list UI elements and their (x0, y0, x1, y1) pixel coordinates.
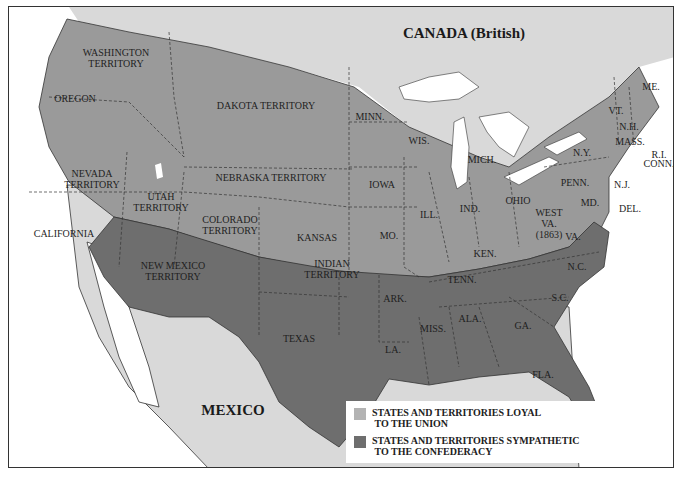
label-md: MD. (581, 197, 600, 208)
label-nebraska: NEBRASKA TERRITORY (215, 172, 326, 183)
label-west-va: WESTVA.(1863) (535, 207, 562, 240)
label-la: LA. (385, 344, 401, 355)
label-va: VA. (565, 231, 581, 242)
label-mass: MASS. (615, 136, 645, 147)
map-legend: STATES AND TERRITORIES LOYAL TO THE UNIO… (346, 401, 662, 463)
union-swatch (354, 408, 366, 420)
label-california: CALIFORNIA (34, 228, 95, 239)
civil-war-map: CANADA (British) MEXICO WASHINGTONTERRIT… (8, 6, 674, 468)
legend-item-confederacy: STATES AND TERRITORIES SYMPATHETIC TO TH… (354, 435, 580, 457)
label-kansas: KANSAS (297, 232, 337, 243)
label-penn: PENN. (561, 177, 590, 188)
label-oregon: OREGON (54, 93, 96, 104)
label-colorado: COLORADOTERRITORY (202, 214, 258, 236)
legend-item-union: STATES AND TERRITORIES LOYAL TO THE UNIO… (354, 407, 541, 429)
label-mich: MICH. (468, 154, 497, 165)
label-ga: GA. (515, 320, 532, 331)
label-minn: MINN. (355, 111, 384, 122)
label-wis: WIS. (409, 135, 430, 146)
label-ny: N.Y. (573, 147, 591, 158)
label-iowa: IOWA (369, 179, 395, 190)
label-ill: ILL. (420, 209, 438, 220)
legend-confederacy-line1: STATES AND TERRITORIES SYMPATHETIC (372, 435, 580, 446)
label-indian-territory: INDIANTERRITORY (304, 258, 359, 280)
label-sc: S.C. (551, 292, 568, 303)
label-ala: ALA. (458, 313, 481, 324)
label-new-mexico: NEW MEXICOTERRITORY (141, 260, 206, 282)
label-utah: UTAHTERRITORY (133, 191, 188, 213)
label-nj: N.J. (614, 179, 630, 190)
label-ind: IND. (460, 203, 480, 214)
label-ohio: OHIO (506, 195, 531, 206)
label-fla: FLA. (532, 369, 553, 380)
label-tenn: TENN. (447, 274, 476, 285)
label-nc: N.C. (568, 261, 587, 272)
label-washington: WASHINGTONTERRITORY (83, 47, 149, 69)
label-dakota: DAKOTA TERRITORY (217, 100, 316, 111)
confederacy-swatch (354, 436, 366, 448)
label-nevada: NEVADATERRITORY (64, 168, 119, 190)
label-del: DEL. (619, 203, 641, 214)
label-nh: N.H. (619, 121, 638, 132)
label-me: ME. (642, 81, 660, 92)
label-conn: CONN. (644, 158, 674, 169)
legend-confederacy-line2: TO THE CONFEDERACY (375, 446, 493, 457)
label-vt: VT. (608, 105, 623, 116)
label-miss: MISS. (420, 323, 446, 334)
label-ken: KEN. (473, 248, 496, 259)
label-ark: ARK. (383, 293, 407, 304)
label-canada: CANADA (British) (403, 28, 525, 39)
legend-union-line2: TO THE UNION (375, 418, 449, 429)
label-mo: MO. (380, 230, 399, 241)
label-texas: TEXAS (283, 333, 315, 344)
legend-union-line1: STATES AND TERRITORIES LOYAL (372, 407, 541, 418)
label-mexico: MEXICO (201, 405, 264, 416)
